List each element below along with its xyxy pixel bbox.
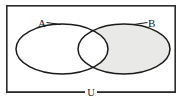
set-a-label: A <box>38 17 46 29</box>
venn-diagram-canvas: A B U <box>0 0 184 103</box>
venn-diagram-figure: A B U <box>0 0 184 103</box>
set-b-label: B <box>148 17 155 29</box>
universal-set-label: U <box>87 87 95 98</box>
